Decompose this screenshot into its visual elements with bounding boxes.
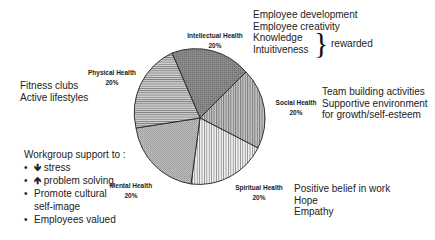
note-line: Employee creativity	[253, 21, 358, 33]
label-name: Intellectual Health	[180, 31, 250, 41]
item-text: stress	[44, 162, 71, 173]
curly-brace-icon: }	[314, 28, 328, 58]
notes-physical: Fitness clubs Active lifestyles	[20, 80, 88, 103]
label-intellectual-health: Intellectual Health 20%	[180, 31, 250, 51]
label-pct: 20%	[82, 78, 142, 88]
notes-spiritual: Positive belief in work Hope Empathy	[294, 183, 390, 218]
label-pct: 20%	[180, 41, 250, 51]
label-pct: 20%	[266, 108, 326, 118]
note-line: Active lifestyles	[20, 92, 88, 104]
arrow-up-icon: 🡹	[34, 175, 41, 186]
label-name: Social Health	[266, 98, 326, 108]
note-line: Employee development	[253, 9, 358, 21]
note-heading: Workgroup support to :	[24, 148, 126, 161]
note-line: Supportive environment	[322, 98, 428, 110]
list-item: 🡻 stress	[24, 161, 126, 174]
slice-mental	[136, 118, 200, 184]
item-text: Employees valued	[34, 214, 116, 225]
notes-mental-list: 🡻 stress 🡹 problem solving Promote cultu…	[24, 161, 126, 226]
note-line: Team building activities	[322, 86, 428, 98]
list-item-continuation: self-image	[24, 200, 126, 213]
notes-social: Team building activities Supportive envi…	[322, 86, 428, 121]
arrow-down-icon: 🡻	[34, 162, 41, 173]
item-text: problem solving	[44, 175, 114, 186]
note-line: Positive belief in work	[294, 183, 390, 195]
label-social-health: Social Health 20%	[266, 98, 326, 118]
item-text: self-image	[34, 201, 80, 212]
notes-mental: Workgroup support to : 🡻 stress 🡹 proble…	[24, 148, 126, 226]
note-line: Fitness clubs	[20, 80, 88, 92]
note-rewarded: rewarded	[331, 38, 373, 50]
label-physical-health: Physical Health 20%	[82, 68, 142, 88]
item-text: Promote cultural	[34, 188, 107, 199]
note-line: Empathy	[294, 206, 390, 218]
label-pct: 20%	[228, 193, 290, 203]
note-line: for growth/self-esteem	[322, 109, 428, 121]
note-line: Hope	[294, 195, 390, 207]
label-name: Spiritual Health	[228, 183, 290, 193]
label-name: Physical Health	[82, 68, 142, 78]
label-spiritual-health: Spiritual Health 20%	[228, 183, 290, 203]
list-item: Promote cultural	[24, 187, 126, 200]
list-item: Employees valued	[24, 213, 126, 226]
list-item: 🡹 problem solving	[24, 174, 126, 187]
